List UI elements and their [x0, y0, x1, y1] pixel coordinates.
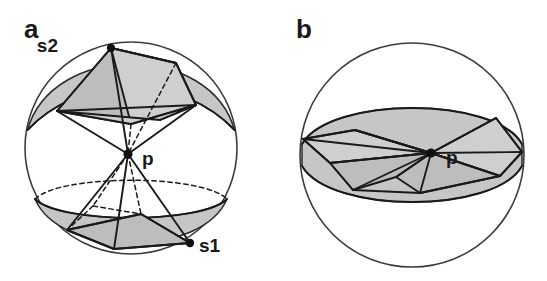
vertex-dot-p-b: [426, 148, 435, 157]
spoke-p-to-right-b: [431, 152, 522, 153]
vertex-dot-s1: [186, 239, 194, 247]
label-p-a: p: [142, 148, 154, 169]
figure-container: a s2 p s1: [0, 0, 547, 281]
label-s1: s1: [199, 235, 221, 256]
panel-a: a s2 p s1: [24, 14, 237, 256]
vertex-dot-s2: [107, 44, 115, 52]
spherical-cone-figure: a s2 p s1: [0, 0, 547, 281]
vertex-dot-p-a: [123, 149, 132, 158]
label-s2: s2: [37, 35, 58, 56]
label-p-b: p: [446, 147, 458, 168]
panel-letter-b: b: [296, 14, 312, 44]
panel-b: b p: [296, 14, 524, 267]
